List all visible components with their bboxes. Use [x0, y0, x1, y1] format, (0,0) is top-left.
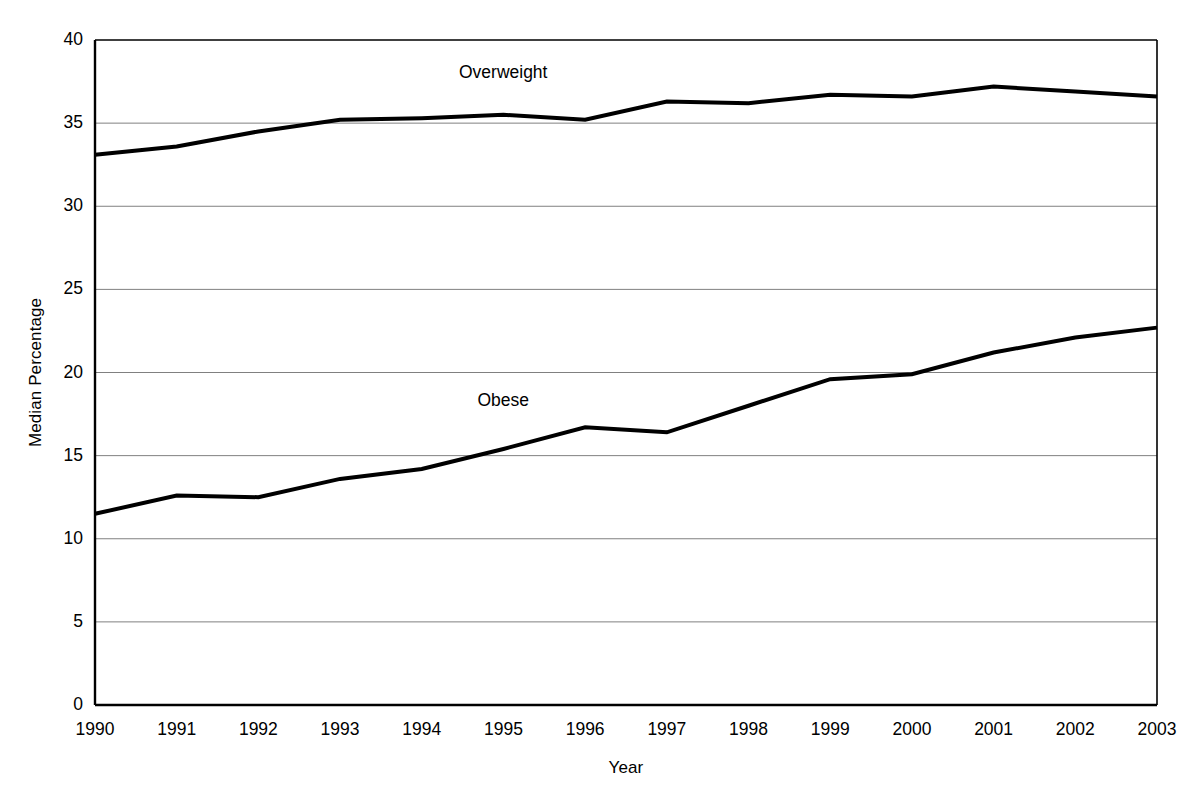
x-tick-label: 2001: [959, 719, 1029, 740]
x-tick-label: 1990: [60, 719, 130, 740]
y-tick-label: 25: [33, 278, 83, 299]
x-tick-label: 2003: [1122, 719, 1188, 740]
x-tick-label: 1995: [468, 719, 538, 740]
y-tick-label: 15: [33, 445, 83, 466]
x-tick-label: 1998: [714, 719, 784, 740]
y-tick-label: 5: [33, 611, 83, 632]
x-tick-label: 1994: [387, 719, 457, 740]
series-line-overweight: [95, 87, 1157, 155]
x-tick-label: 2002: [1040, 719, 1110, 740]
x-tick-label: 1999: [795, 719, 865, 740]
y-tick-label: 20: [33, 362, 83, 383]
series-lines-group: [95, 87, 1157, 514]
x-tick-label: 1996: [550, 719, 620, 740]
series-label-overweight: Overweight: [459, 62, 548, 83]
chart-figure: Median Percentage Year 0510152025303540 …: [0, 0, 1188, 787]
x-tick-label: 2000: [877, 719, 947, 740]
y-tick-label: 0: [33, 694, 83, 715]
y-tick-label: 10: [33, 528, 83, 549]
x-tick-label: 1992: [223, 719, 293, 740]
x-tick-label: 1993: [305, 719, 375, 740]
y-tick-label: 35: [33, 112, 83, 133]
x-axis-title: Year: [609, 758, 644, 778]
series-label-obese: Obese: [477, 390, 529, 411]
gridlines-group: [95, 123, 1157, 622]
x-tick-label: 1997: [632, 719, 702, 740]
line-chart-canvas: [0, 0, 1188, 787]
x-tick-label: 1991: [142, 719, 212, 740]
series-line-obese: [95, 328, 1157, 514]
y-tick-label: 30: [33, 195, 83, 216]
y-tick-label: 40: [33, 29, 83, 50]
